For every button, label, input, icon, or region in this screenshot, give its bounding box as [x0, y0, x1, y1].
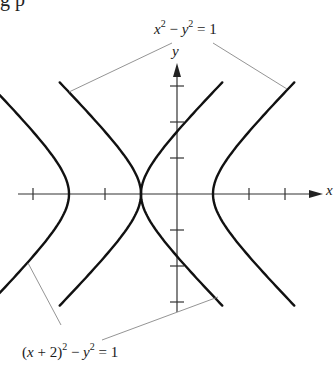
y-axis-arrow-icon [173, 63, 181, 77]
eq2-x: x [27, 344, 34, 360]
eq2-minus: − [67, 344, 83, 360]
leader-line-bottom-left [28, 263, 61, 325]
eq2-rhs: = 1 [95, 344, 118, 360]
x-axis-arrow-icon [309, 190, 323, 198]
leader-lines [28, 43, 287, 340]
leader-line-top-left [69, 43, 172, 92]
eq1-minus: − [166, 21, 182, 37]
eq2-plus2: + 2) [34, 344, 62, 360]
hyperbola-diagram [0, 0, 335, 371]
leader-line-top-right [213, 43, 287, 89]
x-label-text: x [326, 182, 333, 198]
eq1-x: x [154, 21, 161, 37]
equation-label-hyperbola-2: (x + 2)2 − y2 = 1 [22, 344, 118, 361]
eq2-y: y [83, 344, 90, 360]
leader-line-bottom-right [102, 297, 218, 340]
y-label-text: y [172, 43, 179, 59]
equation-label-hyperbola-1: x2 − y2 = 1 [154, 21, 217, 38]
x-axis-label: x [326, 182, 333, 199]
y-axis-label: y [172, 43, 179, 60]
eq1-rhs: = 1 [193, 21, 216, 37]
